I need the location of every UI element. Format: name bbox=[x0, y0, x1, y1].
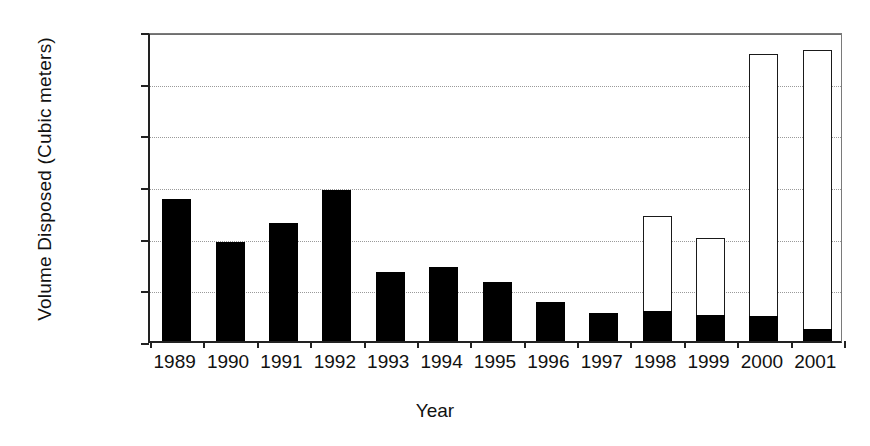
bar-1995 bbox=[483, 282, 512, 341]
y-axis-title: Volume Disposed (Cubic meters) bbox=[34, 14, 56, 344]
y-axis-tick-mark bbox=[141, 291, 149, 293]
plot-area bbox=[148, 33, 842, 343]
bar-1998 bbox=[643, 216, 672, 341]
x-axis-tick-mark bbox=[417, 341, 419, 348]
bar-segment-black bbox=[162, 199, 191, 341]
bar-segment-black bbox=[749, 316, 778, 341]
bar-1994 bbox=[429, 267, 458, 341]
x-axis-tick-mark bbox=[524, 341, 526, 348]
x-axis-tick-mark bbox=[470, 341, 472, 348]
y-axis-tick-mark bbox=[141, 343, 149, 345]
bar-2000 bbox=[749, 54, 778, 341]
bar-segment-black bbox=[589, 313, 618, 341]
bar-segment-black bbox=[322, 190, 351, 341]
x-axis-tick-label: 2001 bbox=[780, 352, 850, 371]
y-axis-tick-mark bbox=[141, 240, 149, 242]
y-axis-tick-mark bbox=[141, 85, 149, 87]
chart-container: Volume Disposed (Cubic meters) 120000100… bbox=[0, 0, 870, 446]
bar-segment-black bbox=[803, 329, 832, 341]
x-axis-tick-mark bbox=[684, 341, 686, 348]
x-axis-tick-mark bbox=[257, 341, 259, 348]
bar-1990 bbox=[216, 242, 245, 341]
x-axis-title: Year bbox=[0, 400, 870, 422]
x-axis-tick-mark bbox=[364, 341, 366, 348]
bar-1992 bbox=[322, 190, 351, 341]
y-axis-tick-mark bbox=[141, 33, 149, 35]
x-axis-tick-mark bbox=[310, 341, 312, 348]
y-axis-tick-mark bbox=[141, 136, 149, 138]
bar-segment-black bbox=[269, 223, 298, 341]
x-axis-tick-mark bbox=[844, 341, 846, 348]
bar-segment-black bbox=[643, 311, 672, 341]
bar-series bbox=[150, 34, 841, 341]
bar-1999 bbox=[696, 238, 725, 341]
y-axis-tick-mark bbox=[141, 188, 149, 190]
x-axis-tick-mark bbox=[791, 341, 793, 348]
x-axis-tick-mark bbox=[577, 341, 579, 348]
x-axis-tick-mark bbox=[203, 341, 205, 348]
bar-segment-black bbox=[696, 315, 725, 341]
x-axis-tick-mark bbox=[737, 341, 739, 348]
bar-segment-black bbox=[216, 242, 245, 341]
bar-1989 bbox=[162, 199, 191, 341]
bar-2001 bbox=[803, 50, 832, 341]
x-axis-tick-mark bbox=[630, 341, 632, 348]
x-axis-tick-mark bbox=[150, 341, 152, 348]
bar-segment-black bbox=[429, 267, 458, 341]
bar-1997 bbox=[589, 313, 618, 341]
bar-1996 bbox=[536, 302, 565, 341]
bar-segment-black bbox=[483, 282, 512, 341]
bar-segment-white bbox=[749, 54, 778, 341]
bar-segment-white bbox=[803, 50, 832, 341]
bar-1993 bbox=[376, 272, 405, 341]
bar-segment-black bbox=[536, 302, 565, 341]
bar-1991 bbox=[269, 223, 298, 341]
bar-segment-black bbox=[376, 272, 405, 341]
